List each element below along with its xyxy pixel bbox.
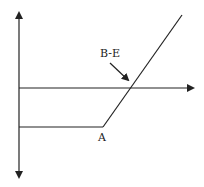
breakeven-arrow [110,63,128,80]
payoff-rising-segment [103,15,182,127]
payoff-diagram: B-E A [0,0,204,187]
breakeven-label: B-E [100,47,120,60]
strike-label: A [97,131,107,144]
